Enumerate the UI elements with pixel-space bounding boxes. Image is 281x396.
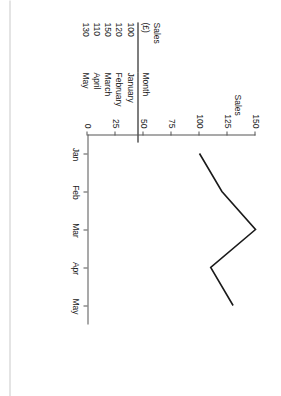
y-axis-tick-label: 150 — [249, 114, 260, 128]
y-axis-tick-label: 25 — [109, 119, 120, 128]
x-axis-tick-label: Apr — [69, 261, 80, 274]
column-header-sales: Sales (£) — [137, 22, 161, 72]
y-axis-tick-label: 100 — [193, 114, 204, 128]
x-axis-tick-label: May — [69, 298, 80, 314]
x-axis-tick-label: Jan — [69, 147, 80, 161]
cell-sales: 150 — [101, 22, 112, 72]
y-axis-tick-label: 0 — [81, 123, 92, 128]
x-axis-tick: Mar — [83, 229, 87, 230]
plot-area — [87, 134, 255, 324]
x-axis-tick: Jan — [83, 153, 87, 154]
sales-line-chart: 0255075100125150 JanFebMarAprMay Sales — [53, 92, 261, 330]
x-axis-tick-label: Mar — [69, 223, 80, 238]
cell-sales: 130 — [79, 22, 90, 72]
x-axis-tick: May — [83, 305, 87, 306]
y-axis-title: Sales — [231, 94, 242, 115]
cell-sales: 120 — [112, 22, 123, 72]
column-header-sales-line1: Sales — [151, 22, 161, 43]
x-axis-tick-label: Feb — [69, 185, 80, 200]
column-header-sales-line2: (£) — [139, 22, 150, 56]
rotated-page-canvas: Sales (£) Month 100January120February150… — [0, 0, 281, 396]
y-axis-tick-label: 75 — [165, 119, 176, 128]
series-line-sales — [87, 134, 255, 324]
cell-sales: 100 — [123, 22, 137, 72]
y-axis-tick-label: 125 — [221, 114, 232, 128]
cell-sales: 110 — [90, 22, 101, 72]
x-axis-tick: Apr — [83, 267, 87, 268]
page-edge-rule — [9, 0, 10, 396]
y-axis-tick-label: 50 — [137, 119, 148, 128]
x-axis-tick: Feb — [83, 191, 87, 192]
page-root: Sales (£) Month 100January120February150… — [0, 0, 281, 396]
